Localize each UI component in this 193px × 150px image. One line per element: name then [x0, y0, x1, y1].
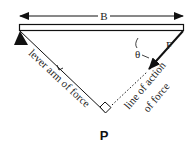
right-angle-marker	[100, 102, 111, 113]
beam	[20, 25, 184, 31]
pivot-triangle-icon	[14, 31, 28, 45]
lever-arm: lever arm of force	[20, 31, 105, 112]
span-dimension-arrow: B	[20, 10, 183, 22]
angle-label: θ	[135, 48, 140, 60]
torque-diagram: B lever arm of force F θ line of action …	[0, 0, 193, 150]
point-label: P	[100, 128, 109, 143]
lever-arm-label: lever arm of force	[27, 47, 93, 110]
force-label: F	[166, 39, 172, 51]
span-label: B	[100, 10, 107, 22]
angle-marker: θ	[135, 38, 149, 60]
